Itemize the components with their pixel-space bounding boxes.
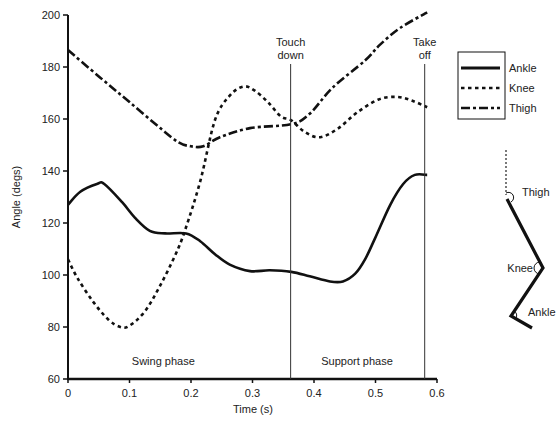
- phase-label: Support phase: [321, 355, 393, 367]
- legend-label-ankle: Ankle: [509, 62, 537, 74]
- legend: AnkleKneeThigh: [458, 52, 537, 119]
- diagram-label-thigh: Thigh: [522, 186, 550, 198]
- event-label: down: [277, 49, 303, 61]
- x-tick-label: 0.6: [429, 387, 444, 399]
- event-label: off: [419, 49, 432, 61]
- plot-lines: [68, 12, 427, 327]
- series-knee: [68, 86, 427, 327]
- diagram-label-knee: Knee: [507, 262, 533, 274]
- series-thigh: [68, 12, 427, 147]
- y-tick-label: 200: [42, 9, 60, 21]
- y-tick-label: 60: [48, 373, 60, 385]
- y-axis-label: Angle (degs): [10, 166, 22, 228]
- legend-label-thigh: Thigh: [509, 102, 537, 114]
- series-ankle: [68, 174, 427, 282]
- x-tick-label: 0.4: [306, 387, 321, 399]
- phase-label: Swing phase: [132, 355, 195, 367]
- x-tick-label: 0.5: [368, 387, 383, 399]
- y-tick-label: 100: [42, 269, 60, 281]
- y-tick-label: 140: [42, 165, 60, 177]
- leg-joint-diagram: ThighKneeAnkle: [506, 150, 556, 328]
- x-tick-label: 0.3: [245, 387, 260, 399]
- y-tick-label: 120: [42, 217, 60, 229]
- y-tick-label: 180: [42, 61, 60, 73]
- x-axis-label: Time (s): [233, 403, 273, 415]
- phase-annotations: TouchdownTakeoffSwing phaseSupport phase: [132, 36, 437, 379]
- legend-label-knee: Knee: [509, 82, 535, 94]
- axes: 608010012014016018020000.10.20.30.40.50.…: [42, 9, 445, 399]
- gait-angle-chart: 608010012014016018020000.10.20.30.40.50.…: [0, 0, 560, 427]
- event-label: Touch: [276, 36, 305, 48]
- event-label: Take: [413, 36, 436, 48]
- y-tick-label: 80: [48, 321, 60, 333]
- y-tick-label: 160: [42, 113, 60, 125]
- x-tick-label: 0: [65, 387, 71, 399]
- x-tick-label: 0.1: [122, 387, 137, 399]
- diagram-label-ankle: Ankle: [528, 306, 556, 318]
- x-tick-label: 0.2: [183, 387, 198, 399]
